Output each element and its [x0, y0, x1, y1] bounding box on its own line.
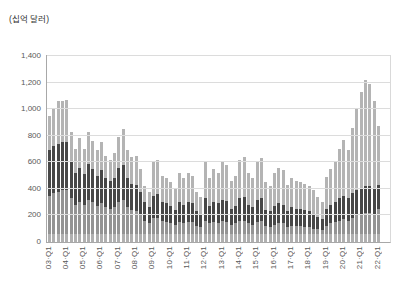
- segment-top-light: [247, 173, 250, 205]
- segment-dark: [225, 201, 228, 222]
- bar: [260, 158, 263, 242]
- segment-top-light: [373, 101, 376, 187]
- segment-medium: [290, 226, 293, 234]
- segment-medium: [91, 202, 94, 234]
- segment-dark: [109, 181, 112, 209]
- segment-medium: [234, 223, 237, 234]
- y-tick-label: 200: [28, 210, 41, 219]
- segment-dark: [178, 202, 181, 222]
- y-tick-label: 800: [28, 130, 41, 139]
- segment-dark: [165, 203, 168, 222]
- segment-bottom-light: [286, 234, 289, 242]
- segment-top-light: [113, 153, 116, 178]
- segment-medium: [109, 209, 112, 234]
- segment-dark: [316, 217, 319, 229]
- segment-dark: [355, 190, 358, 215]
- segment-medium: [195, 226, 198, 234]
- segment-top-light: [152, 161, 155, 196]
- segment-bottom-light: [295, 234, 298, 242]
- segment-medium: [299, 226, 302, 234]
- segment-dark: [87, 164, 90, 200]
- segment-dark: [148, 207, 151, 223]
- bar: [199, 197, 202, 242]
- bar-chart-figure: (십억 달러) 1,4001,2001,0008006004002000 03·…: [0, 0, 400, 304]
- segment-medium: [178, 222, 181, 234]
- bar: [65, 100, 68, 242]
- bar: [347, 150, 350, 242]
- bar: [338, 149, 341, 242]
- segment-dark: [122, 165, 125, 200]
- segment-medium: [308, 227, 311, 234]
- bar: [264, 182, 267, 242]
- segment-bottom-light: [312, 234, 315, 242]
- segment-top-light: [225, 165, 228, 201]
- segment-bottom-light: [48, 234, 51, 242]
- segment-medium: [70, 198, 73, 234]
- x-tick-label: 14·Q1: [234, 246, 243, 269]
- segment-top-light: [355, 108, 358, 190]
- gridline: [47, 82, 390, 83]
- segment-dark: [96, 176, 99, 207]
- bar: [256, 162, 259, 242]
- segment-top-light: [308, 186, 311, 211]
- bar: [148, 192, 151, 242]
- bar: [360, 92, 363, 242]
- segment-bottom-light: [61, 234, 64, 242]
- segment-medium: [169, 223, 172, 234]
- segment-dark: [347, 198, 350, 221]
- segment-dark: [204, 198, 207, 221]
- segment-bottom-light: [221, 234, 224, 242]
- segment-top-light: [191, 176, 194, 204]
- bar: [156, 160, 159, 242]
- bar: [130, 157, 133, 242]
- segment-bottom-light: [87, 234, 90, 242]
- segment-dark: [295, 209, 298, 226]
- segment-dark: [342, 196, 345, 220]
- segment-bottom-light: [113, 234, 116, 242]
- segment-dark: [113, 178, 116, 207]
- segment-bottom-light: [152, 234, 155, 242]
- bar: [225, 165, 228, 242]
- segment-bottom-light: [225, 234, 228, 242]
- y-tick-label: 0: [37, 237, 41, 246]
- segment-bottom-light: [325, 234, 328, 242]
- gridline: [47, 214, 390, 215]
- bar: [109, 160, 112, 242]
- segment-bottom-light: [187, 234, 190, 242]
- segment-bottom-light: [74, 234, 77, 242]
- segment-top-light: [174, 189, 177, 210]
- segment-top-light: [182, 178, 185, 205]
- segment-medium: [156, 218, 159, 234]
- bar: [295, 181, 298, 242]
- bar: [329, 169, 332, 242]
- bar: [152, 161, 155, 242]
- segment-top-light: [96, 150, 99, 175]
- bar: [217, 173, 220, 242]
- segment-top-light: [126, 150, 129, 178]
- segment-bottom-light: [52, 234, 55, 242]
- segment-dark: [161, 202, 164, 221]
- x-tick-label: 07·Q1: [113, 246, 122, 269]
- segment-bottom-light: [57, 234, 60, 242]
- segment-bottom-light: [182, 234, 185, 242]
- segment-top-light: [312, 190, 315, 214]
- segment-bottom-light: [251, 234, 254, 242]
- segment-top-light: [269, 186, 272, 211]
- segment-top-light: [299, 182, 302, 209]
- bar: [78, 138, 81, 242]
- segment-dark: [65, 142, 68, 190]
- segment-bottom-light: [238, 234, 241, 242]
- segment-medium: [161, 221, 164, 234]
- segment-dark: [264, 210, 267, 226]
- segment-dark: [104, 178, 107, 207]
- segment-dark: [321, 219, 324, 230]
- bar: [100, 142, 103, 242]
- x-tick-label: 05·Q1: [78, 246, 87, 269]
- segment-dark: [70, 162, 73, 198]
- bar: [174, 189, 177, 242]
- bar: [52, 108, 55, 242]
- segment-medium: [342, 219, 345, 234]
- x-tick-label: 17·Q1: [286, 246, 295, 269]
- segment-medium: [286, 227, 289, 234]
- segment-top-light: [117, 137, 120, 168]
